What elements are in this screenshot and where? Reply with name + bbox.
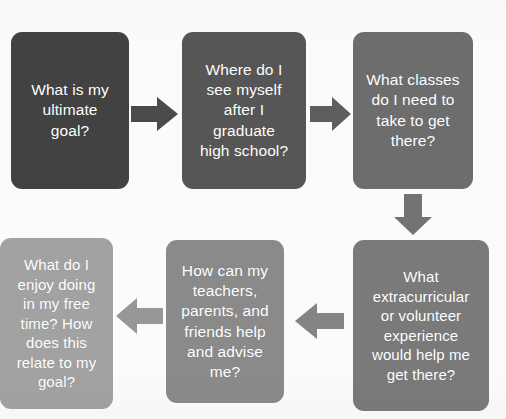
flowchart-node-3[interactable]: What classes do I need to take to get th…: [353, 32, 473, 189]
flowchart-node-1[interactable]: What is my ultimate goal?: [11, 32, 129, 189]
arrow-right-node1-to-node2: [131, 97, 179, 131]
flowchart-node-3-label: What classes do I need to take to get th…: [366, 70, 459, 151]
arrow-left-node5-to-node6: [116, 298, 164, 334]
flowchart-node-5-label: How can my teachers, parents, and friend…: [181, 261, 268, 382]
flowchart-node-6[interactable]: What do I enjoy doing in my free time? H…: [0, 238, 113, 409]
flowchart-node-2[interactable]: Where do I see myself after I graduate h…: [182, 32, 306, 189]
arrow-down-node3-to-node4: [393, 194, 433, 236]
flowchart-node-4[interactable]: What extracurricular or volunteer experi…: [353, 240, 489, 411]
flowchart-node-1-label: What is my ultimate goal?: [31, 80, 109, 140]
flowchart-node-6-label: What do I enjoy doing in my free time? H…: [17, 255, 97, 392]
flowchart-node-5[interactable]: How can my teachers, parents, and friend…: [166, 240, 284, 403]
flowchart-node-4-label: What extracurricular or volunteer experi…: [372, 267, 470, 384]
flowchart-node-2-label: Where do I see myself after I graduate h…: [200, 60, 288, 161]
arrow-left-node4-to-node5: [295, 303, 345, 339]
flowchart-canvas: What is my ultimate goal? Where do I see…: [0, 0, 506, 419]
arrow-right-node2-to-node3: [310, 97, 352, 131]
